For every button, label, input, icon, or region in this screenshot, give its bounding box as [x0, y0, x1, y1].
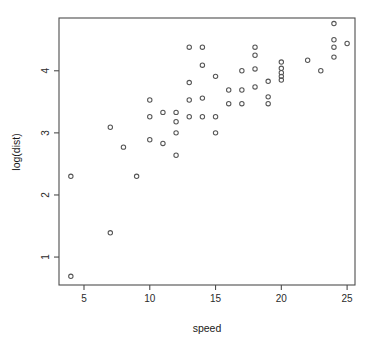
data-point — [279, 66, 283, 70]
data-point — [332, 55, 336, 59]
data-point — [240, 88, 244, 92]
data-point-series — [69, 21, 350, 278]
data-point — [345, 41, 349, 45]
y-axis-tick-labels: 1234 — [41, 68, 52, 260]
data-point — [187, 45, 191, 49]
data-point — [174, 120, 178, 124]
data-point — [187, 98, 191, 102]
x-tick-label: 10 — [144, 293, 156, 304]
data-point — [148, 138, 152, 142]
data-point — [332, 45, 336, 49]
scatter-plot-figure: 510152025 1234 speed log(dist) — [0, 0, 372, 345]
x-tick-label: 20 — [276, 293, 288, 304]
data-point — [266, 101, 270, 105]
data-point — [332, 21, 336, 25]
data-point — [108, 125, 112, 129]
data-point — [305, 58, 309, 62]
data-point — [253, 53, 257, 57]
x-tick-label: 15 — [210, 293, 222, 304]
x-tick-label: 25 — [342, 293, 354, 304]
y-tick-label: 3 — [41, 130, 52, 136]
data-point — [266, 95, 270, 99]
data-point — [174, 153, 178, 157]
data-point — [200, 63, 204, 67]
data-point — [213, 131, 217, 135]
data-point — [200, 45, 204, 49]
data-point — [69, 274, 73, 278]
data-point — [240, 101, 244, 105]
data-point — [279, 60, 283, 64]
data-point — [174, 110, 178, 114]
data-point — [174, 131, 178, 135]
data-point — [187, 115, 191, 119]
plot-box — [59, 18, 355, 285]
data-point — [148, 115, 152, 119]
data-point — [253, 45, 257, 49]
data-point — [227, 101, 231, 105]
data-point — [213, 115, 217, 119]
y-axis-label: log(dist) — [10, 133, 22, 170]
x-axis-tick-labels: 510152025 — [81, 293, 353, 304]
data-point — [161, 110, 165, 114]
data-point — [161, 141, 165, 145]
data-point — [253, 85, 257, 89]
data-point — [148, 98, 152, 102]
plot-canvas: 510152025 1234 speed log(dist) — [0, 0, 372, 345]
x-tick-label: 5 — [81, 293, 87, 304]
y-tick-label: 2 — [41, 192, 52, 198]
data-point — [213, 74, 217, 78]
data-point — [187, 80, 191, 84]
y-tick-label: 1 — [41, 254, 52, 260]
data-point — [134, 174, 138, 178]
data-point — [69, 174, 73, 178]
data-point — [319, 69, 323, 73]
data-point — [121, 145, 125, 149]
data-point — [266, 79, 270, 83]
x-axis-ticks — [84, 285, 347, 290]
data-point — [253, 67, 257, 71]
y-tick-label: 4 — [41, 68, 52, 74]
data-point — [332, 38, 336, 42]
data-point — [227, 88, 231, 92]
data-point — [200, 115, 204, 119]
plot-border — [59, 18, 355, 285]
data-point — [200, 96, 204, 100]
y-axis-ticks — [54, 71, 59, 257]
x-axis-label: speed — [193, 322, 222, 334]
data-point — [240, 69, 244, 73]
data-point — [108, 231, 112, 235]
